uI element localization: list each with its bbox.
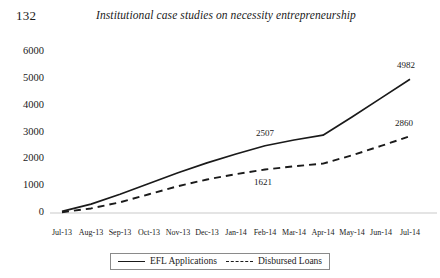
x-axis-tick-label: Oct-13 <box>138 228 160 237</box>
y-axis-tick-label: 4000 <box>0 99 44 110</box>
solid-line-icon <box>118 261 145 262</box>
series-line-efl-applications <box>62 79 410 211</box>
x-axis-tick-label: Jul-13 <box>52 228 72 237</box>
series-line-disbursed-loans <box>62 136 410 212</box>
x-axis-tick-label: Jan-14 <box>225 228 246 237</box>
legend-label: Disbursed Loans <box>258 256 322 266</box>
chart-plot-area <box>0 34 440 278</box>
legend-item-efl-applications: EFL Applications <box>118 256 217 266</box>
line-chart: 0100020003000400050006000 Jul-13Aug-13Se… <box>0 34 440 278</box>
legend-item-disbursed-loans: Disbursed Loans <box>226 256 322 266</box>
y-axis-tick-label: 2000 <box>0 152 44 163</box>
y-axis-tick-label: 0 <box>0 206 44 217</box>
data-point-label: 1621 <box>254 177 272 187</box>
x-axis-tick-label: Dec-13 <box>195 228 219 237</box>
data-point-label: 4982 <box>397 60 415 70</box>
x-axis-tick-label: Jun-14 <box>370 228 392 237</box>
x-axis-tick-label: Sep-13 <box>109 228 132 237</box>
x-axis-tick-label: Aug-13 <box>79 228 103 237</box>
data-point-label: 2507 <box>256 128 274 138</box>
x-axis-tick-label: Jul-14 <box>400 228 420 237</box>
legend-label: EFL Applications <box>150 256 217 266</box>
page-number: 132 <box>16 8 36 24</box>
chart-legend: EFL Applications Disbursed Loans <box>110 253 330 270</box>
x-axis-tick-label: Feb-14 <box>254 228 277 237</box>
book-page: 132 Institutional case studies on necess… <box>0 0 440 278</box>
y-axis-tick-label: 3000 <box>0 126 44 137</box>
x-axis-tick-label: Mar-14 <box>282 228 306 237</box>
y-axis-tick-label: 6000 <box>0 45 44 56</box>
data-point-label: 2860 <box>395 118 413 128</box>
running-head-title: Institutional case studies on necessity … <box>96 9 356 21</box>
x-axis-tick-label: Nov-13 <box>166 228 190 237</box>
dashed-line-icon <box>226 261 253 262</box>
x-axis-tick-label: May-14 <box>339 228 364 237</box>
x-axis-tick-label: Apr-14 <box>312 228 335 237</box>
y-axis-tick-label: 5000 <box>0 72 44 83</box>
y-axis-tick-label: 1000 <box>0 179 44 190</box>
running-head-row: 132 Institutional case studies on necess… <box>0 8 440 28</box>
